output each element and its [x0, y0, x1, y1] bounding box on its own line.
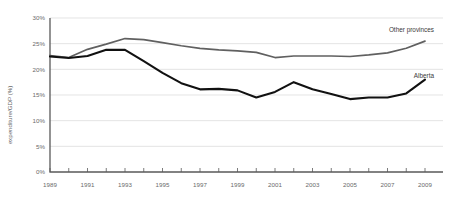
x-tick-label: 2007	[381, 181, 395, 188]
x-tick-label: 2001	[268, 181, 282, 188]
series-line-other-provinces	[50, 39, 425, 58]
y-tick-label: 10%	[33, 117, 46, 124]
y-tick-label: 20%	[33, 66, 46, 73]
y-tick-label: 15%	[33, 91, 46, 98]
line-chart: 0%5%10%15%20%25%30% 19891991199319951997…	[0, 0, 450, 201]
series-line-alberta	[50, 50, 425, 99]
series-label-other-provinces: Other provinces	[389, 26, 434, 34]
x-tick-label: 1999	[231, 181, 245, 188]
x-tick-label: 1993	[118, 181, 132, 188]
x-tick-label: 2009	[418, 181, 432, 188]
x-tick-label: 1989	[43, 181, 57, 188]
series-label-alberta: Alberta	[414, 72, 435, 79]
y-axis-tick-labels: 0%5%10%15%20%25%30%	[33, 14, 46, 175]
y-tick-label: 5%	[36, 143, 45, 150]
y-tick-label: 30%	[33, 14, 46, 21]
x-axis-tick-labels: 1989199119931995199719992001200320052007…	[43, 181, 432, 188]
gridlines	[50, 18, 443, 146]
x-tick-label: 2005	[343, 181, 357, 188]
x-tick-label: 1995	[156, 181, 170, 188]
series-labels: Other provincesAlberta	[389, 26, 435, 79]
x-tick-label: 1991	[81, 181, 95, 188]
x-tick-label: 1997	[193, 181, 207, 188]
data-series	[50, 39, 425, 100]
chart-container: 0%5%10%15%20%25%30% 19891991199319951997…	[0, 0, 450, 201]
y-axis-title: expenditure/GDP (%)	[6, 86, 13, 145]
x-tick-label: 2003	[306, 181, 320, 188]
y-tick-label: 25%	[33, 40, 46, 47]
y-tick-label: 0%	[36, 168, 45, 175]
